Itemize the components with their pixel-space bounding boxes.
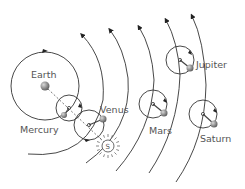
saturn-epicycle: Saturn: [189, 100, 231, 144]
saturn-deferent-arc: [176, 16, 206, 182]
venus-planet-icon: [100, 116, 107, 123]
mercury-planet-icon: [61, 112, 67, 118]
mercury-label: Mercury: [20, 124, 59, 135]
jupiter-epicycle: Jupiter: [166, 46, 227, 74]
venus-label: Venus: [100, 104, 129, 115]
earth-label: Earth: [31, 69, 56, 80]
deferent-arcs: [28, 16, 206, 182]
mars-planet-icon: [161, 110, 168, 117]
mars-deferent-arc: [116, 27, 154, 171]
mars-epicycle: Mars: [139, 90, 172, 136]
sun: S: [96, 134, 120, 158]
mars-label: Mars: [149, 125, 172, 136]
jupiter-planet-icon: [187, 65, 194, 72]
geocentric-diagram: Earth Mercury Venus: [0, 0, 245, 189]
jupiter-label: Jupiter: [195, 59, 227, 70]
saturn-planet-icon: [211, 121, 218, 128]
mercury-epicycle: Mercury: [20, 95, 82, 135]
sun-label: S: [106, 143, 111, 151]
saturn-label: Saturn: [200, 133, 231, 144]
earth: Earth: [31, 69, 56, 91]
